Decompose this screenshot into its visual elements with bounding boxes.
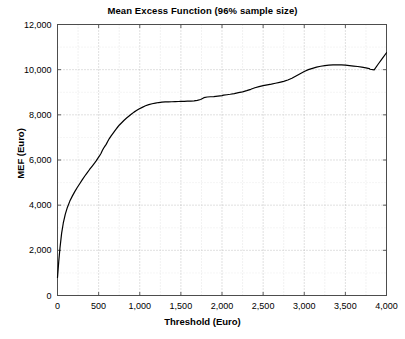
x-tick-label: 3,000 <box>293 301 316 311</box>
y-tick-label: 8,000 <box>0 110 52 120</box>
y-tick-label: 4,000 <box>0 200 52 210</box>
y-axis-title: MEF (Euro) <box>15 104 26 204</box>
x-tick-label: 2,500 <box>252 301 275 311</box>
y-tick-label: 2,000 <box>0 245 52 255</box>
plot-area <box>0 0 405 339</box>
x-tick-label: 1,500 <box>170 301 193 311</box>
x-axis-title: Threshold (Euro) <box>0 316 405 327</box>
y-tick-label: 10,000 <box>0 65 52 75</box>
x-tick-label: 4,000 <box>375 301 398 311</box>
x-tick-label: 0 <box>55 301 60 311</box>
y-tick-label: 0 <box>0 291 52 301</box>
x-tick-label: 500 <box>91 301 106 311</box>
x-tick-label: 2,000 <box>211 301 234 311</box>
x-tick-label: 1,000 <box>128 301 151 311</box>
chart-figure: Mean Excess Function (96% sample size) 0… <box>0 0 405 339</box>
y-tick-label: 6,000 <box>0 155 52 165</box>
x-tick-label: 3,500 <box>334 301 357 311</box>
y-tick-label: 12,000 <box>0 20 52 30</box>
